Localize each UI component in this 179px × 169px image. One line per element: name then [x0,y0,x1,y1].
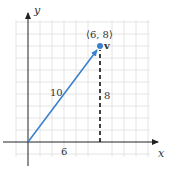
magnitude-label: 10 [50,87,63,98]
horizontal-component-label: 6 [61,146,67,157]
vector-name-label: v [103,40,111,51]
vector-diagram: x y ⟨6, 8⟩ v 10 8 6 [0,0,179,169]
vertical-component-label: 8 [104,90,110,101]
point-coordinate-label: ⟨6, 8⟩ [86,29,113,40]
vector-tip-point [97,43,103,49]
x-axis-label: x [158,147,165,160]
y-axis-label: y [33,4,41,17]
grid [16,20,150,157]
